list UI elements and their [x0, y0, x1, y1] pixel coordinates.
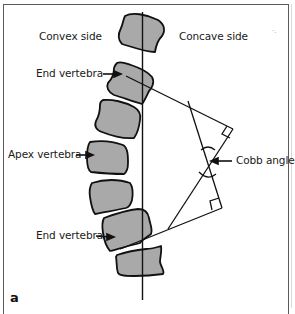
- label-end-vertebra-upper: End vertebra: [36, 67, 103, 79]
- right-angle-marker-lower: [210, 198, 219, 210]
- scan-artifact: ·.: [272, 27, 276, 35]
- vertebra-1: [119, 14, 164, 52]
- label-concave-side: Concave side: [179, 30, 248, 42]
- vertebra-2-end-upper: [107, 62, 153, 104]
- label-convex-side: Convex side: [39, 30, 102, 42]
- label-end-vertebra-lower: End vertebra: [36, 229, 103, 241]
- lower-perpendicular: [168, 129, 233, 229]
- label-cobb-angle: Cobb angle: [236, 154, 295, 166]
- vertebra-7: [116, 246, 164, 276]
- label-apex-vertebra: Apex vertebra: [8, 148, 81, 160]
- vertebra-3: [95, 100, 140, 138]
- vertebra-5: [90, 180, 133, 214]
- panel-label: a: [10, 290, 19, 305]
- vertebra-6-end-lower: [102, 209, 151, 251]
- vertebra-4-apex: [87, 141, 128, 174]
- arrow-cobb-head: [211, 158, 218, 164]
